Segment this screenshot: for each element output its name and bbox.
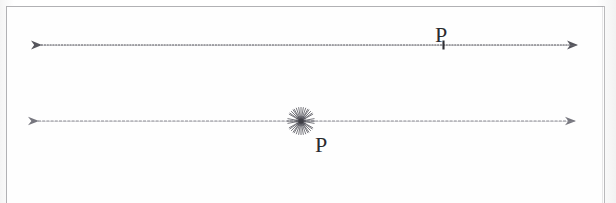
diagram-canvas [0, 0, 616, 203]
starburst-point-icon [287, 107, 315, 135]
figure-root: P P [0, 0, 616, 203]
upper-number-line-group [41, 41, 577, 50]
lower-number-line-group [38, 107, 575, 135]
lower-point-label-p: P [315, 134, 327, 156]
upper-point-label-p: P [435, 24, 447, 46]
